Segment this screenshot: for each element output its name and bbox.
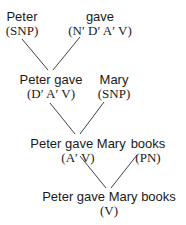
node-peter-gave-mary-books: Peter gave Mary books (V) xyxy=(38,190,180,218)
edge-peter-gave-to-peter-gave-mary xyxy=(50,103,75,134)
node-gave: gave (N′ D′ A′ V) xyxy=(62,10,138,38)
node-books: books (PN) xyxy=(128,137,168,165)
node-word: Peter gave Mary xyxy=(26,137,130,151)
node-word: Peter gave xyxy=(18,73,84,87)
node-word: Peter xyxy=(4,10,40,24)
node-word: Mary xyxy=(94,73,134,87)
node-category: (A′ V) xyxy=(26,151,130,165)
node-peter-gave: Peter gave (D′ A′ V) xyxy=(18,73,84,101)
edge-peter-to-peter-gave xyxy=(22,39,48,70)
node-category: (N′ D′ A′ V) xyxy=(62,24,138,38)
node-category: (SNP) xyxy=(4,24,40,38)
node-category: (PN) xyxy=(128,151,168,165)
edge-mary-to-peter-gave-mary xyxy=(80,102,104,134)
node-peter-gave-mary: Peter gave Mary (A′ V) xyxy=(26,137,130,165)
node-category: (D′ A′ V) xyxy=(18,87,84,101)
node-word: gave xyxy=(62,10,138,24)
node-word: books xyxy=(128,137,168,151)
node-word: Peter gave Mary books xyxy=(38,190,180,204)
derivation-tree-diagram: Peter (SNP) gave (N′ D′ A′ V) Peter gave… xyxy=(0,0,186,225)
node-category: (V) xyxy=(38,204,180,218)
node-category: (SNP) xyxy=(94,87,134,101)
node-peter: Peter (SNP) xyxy=(4,10,40,38)
node-mary: Mary (SNP) xyxy=(94,73,134,101)
edge-gave-to-peter-gave xyxy=(53,37,80,70)
